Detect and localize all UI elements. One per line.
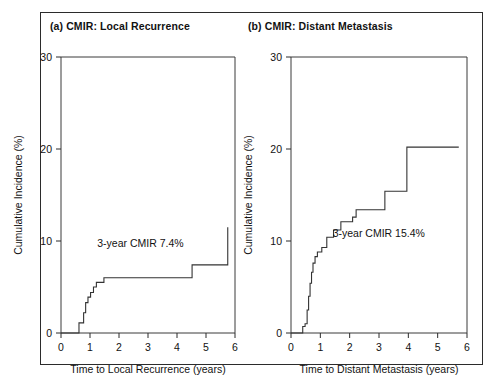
plot-frame [61,57,235,333]
panel-distant-metastasis: (b) CMIR: Distant Metastasis 01020300123… [230,0,493,391]
x-tick-label: 5 [203,341,209,353]
y-tick-label: 30 [40,51,52,63]
x-tick-label: 2 [116,341,122,353]
plot-frame [291,57,467,333]
panel-b-plot: 01020300123456Time to Distant Metastasis… [230,0,493,391]
x-tick-label: 5 [435,341,441,353]
y-tick-label: 20 [270,143,282,155]
x-axis-title: Time to Local Recurrence (years) [70,363,225,375]
x-tick-label: 4 [405,341,411,353]
x-tick-label: 4 [174,341,180,353]
x-tick-label: 3 [376,341,382,353]
figure-root: (a) CMIR: Local Recurrence 0102030012345… [0,0,493,391]
cmir-annotation: 3-year CMIR 7.4% [97,237,183,249]
panel-local-recurrence: (a) CMIR: Local Recurrence 0102030012345… [0,0,250,391]
x-tick-label: 6 [464,341,470,353]
y-tick-label: 10 [270,235,282,247]
y-tick-label: 10 [40,235,52,247]
cmir-annotation: 3-year CMIR 15.4% [333,227,425,239]
x-tick-label: 0 [288,341,294,353]
panel-a-plot: 01020300123456Time to Local Recurrence (… [0,0,250,391]
y-axis-title: Cumulative Incidence (%) [12,135,24,255]
y-axis-title: Cumulative Incidence (%) [242,135,254,255]
x-axis-title: Time to Distant Metastasis (years) [300,363,459,375]
x-tick-label: 3 [145,341,151,353]
cumulative-incidence-curve [291,147,459,333]
x-tick-label: 2 [347,341,353,353]
y-tick-label: 0 [46,327,52,339]
y-tick-label: 0 [276,327,282,339]
x-tick-label: 1 [317,341,323,353]
y-tick-label: 20 [40,143,52,155]
x-tick-label: 0 [58,341,64,353]
x-tick-label: 1 [87,341,93,353]
y-tick-label: 30 [270,51,282,63]
